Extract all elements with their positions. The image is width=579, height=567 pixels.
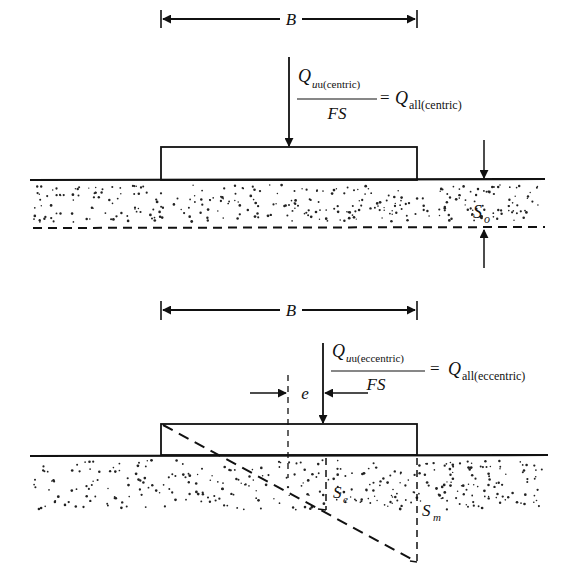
load-formula-bottom: Q uu(eccentric) FS = Q all(eccentric): [331, 341, 525, 394]
q-symbol: Q: [332, 341, 345, 361]
tilted-base-line: [163, 425, 415, 561]
settlement-so-dimension: S o: [473, 140, 490, 268]
subscript-text: u(eccentric): [352, 352, 405, 365]
settlement-se-dimension: S e: [318, 458, 348, 510]
so-subscript: o: [484, 212, 490, 226]
ground-surface-bottom: [30, 455, 548, 456]
width-label-b-top: B: [286, 10, 297, 29]
width-label-b-bottom: B: [286, 301, 297, 320]
diagram-canvas: B Q uu(centric) FS = Q all(centric) S o: [0, 0, 579, 567]
bottom-panel-eccentric: B Q uu(eccentric) FS = Q all(eccentric) …: [30, 301, 548, 562]
q-all-subscript: all(eccentric): [462, 369, 525, 383]
equals-sign: =: [430, 359, 440, 378]
footing-top: [161, 147, 417, 180]
se-label: S: [333, 483, 342, 502]
settlement-sm-dimension: S m: [410, 458, 441, 562]
q-ult-subscript: uu(centric): [312, 78, 361, 91]
soil-texture-top: [33, 184, 539, 223]
q-all-subscript: all(centric): [409, 98, 462, 112]
q-ult-subscript: uu(eccentric): [346, 352, 404, 365]
sm-subscript: m: [433, 511, 441, 523]
width-dimension-bottom: B: [161, 301, 417, 320]
equals-sign: =: [380, 88, 390, 107]
se-subscript: e: [343, 493, 348, 505]
eccentricity-dimension: e: [250, 375, 368, 478]
q-all-symbol: Q: [448, 359, 461, 379]
q-symbol: Q: [298, 66, 311, 86]
footing-bottom: [161, 424, 417, 455]
e-label: e: [301, 384, 309, 403]
load-formula-top: Q uu(centric) FS = Q all(centric): [297, 66, 462, 123]
ground-surface-top: [30, 179, 545, 180]
so-label: S: [473, 202, 482, 222]
q-all-symbol: Q: [395, 88, 408, 108]
subscript-text: u(centric): [318, 78, 361, 91]
sm-label: S: [422, 501, 431, 520]
top-panel-centric: B Q uu(centric) FS = Q all(centric) S o: [30, 10, 545, 268]
settled-surface-top: [33, 227, 545, 228]
fs-denominator: FS: [366, 375, 386, 394]
fs-denominator: FS: [327, 104, 347, 123]
width-dimension-top: B: [161, 10, 417, 29]
